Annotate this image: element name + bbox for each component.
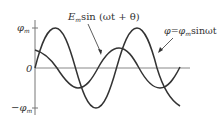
label-phi-min: −φm (11, 102, 32, 114)
label-zero: 0 (26, 63, 33, 74)
label-phi-max: φm (17, 22, 30, 34)
waveform-diagram: φm 0 −φm Emsin (ωt + θ) φ=φmsinωt (0, 0, 222, 124)
emf-arrowhead-icon (98, 49, 102, 55)
emf-label: Emsin (ωt + θ) (67, 11, 140, 23)
flux-label: φ=φmsinωt (164, 25, 217, 37)
emf-pointer-arrow (88, 24, 101, 53)
flux-arrowhead-icon (158, 47, 163, 53)
